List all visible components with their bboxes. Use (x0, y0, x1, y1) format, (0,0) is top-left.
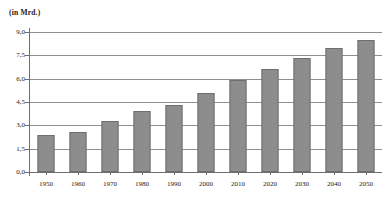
bar (262, 69, 279, 172)
y-tick-mark (25, 102, 30, 103)
bar-slot (94, 32, 126, 172)
bar-slot (254, 32, 286, 172)
x-tick-mark (78, 172, 79, 175)
y-tick-label: 7,5 (16, 51, 25, 59)
y-tick-label: 1,5 (16, 145, 25, 153)
y-tick-mark (25, 149, 30, 150)
y-tick-mark (25, 125, 30, 126)
y-axis-tick-labels: 0,01,53,04,56,07,59,0 (0, 0, 25, 199)
y-tick-label: 9,0 (16, 28, 25, 36)
x-tick-mark (142, 172, 143, 175)
bar-slot (286, 32, 318, 172)
bar (230, 80, 247, 172)
bar (38, 135, 55, 172)
x-tick-mark (206, 172, 207, 175)
y-tick-label: 0,0 (16, 168, 25, 176)
bar (294, 58, 311, 172)
x-tick-mark (270, 172, 271, 175)
x-tick-mark (174, 172, 175, 175)
x-tick-label: 1980 (135, 180, 149, 188)
y-tick-mark (25, 172, 30, 173)
x-tick-mark (366, 172, 367, 175)
bar-slot (126, 32, 158, 172)
y-tick-mark (25, 55, 30, 56)
x-tick-label: 2010 (231, 180, 245, 188)
x-tick-label: 1990 (167, 180, 181, 188)
bar-slot (30, 32, 62, 172)
bar-slot (318, 32, 350, 172)
x-tick-mark (334, 172, 335, 175)
bar-slot (350, 32, 382, 172)
bar (198, 93, 215, 172)
x-tick-label: 1960 (71, 180, 85, 188)
x-tick-mark (110, 172, 111, 175)
x-tick-label: 2020 (263, 180, 277, 188)
x-tick-label: 2030 (295, 180, 309, 188)
x-tick-label: 1950 (39, 180, 53, 188)
bar (358, 40, 375, 172)
bar-slot (62, 32, 94, 172)
x-tick-label: 1970 (103, 180, 117, 188)
x-tick-mark (302, 172, 303, 175)
x-tick-label: 2040 (327, 180, 341, 188)
bar-slot (222, 32, 254, 172)
x-tick-label: 2000 (199, 180, 213, 188)
bar (166, 105, 183, 172)
bar (134, 111, 151, 172)
bar (70, 132, 87, 172)
y-tick-mark (25, 79, 30, 80)
y-tick-label: 3,0 (16, 121, 25, 129)
bar (102, 121, 119, 172)
bar-slot (190, 32, 222, 172)
bar (326, 48, 343, 172)
y-tick-label: 4,5 (16, 98, 25, 106)
x-tick-label: 2050 (359, 180, 373, 188)
bar-chart: (in Mrd.) 0,01,53,04,56,07,59,0 19501960… (0, 0, 390, 199)
y-tick-mark (25, 32, 30, 33)
bar-slot (158, 32, 190, 172)
plot-area (30, 32, 382, 172)
x-tick-mark (46, 172, 47, 175)
x-tick-mark (238, 172, 239, 175)
y-tick-label: 6,0 (16, 75, 25, 83)
